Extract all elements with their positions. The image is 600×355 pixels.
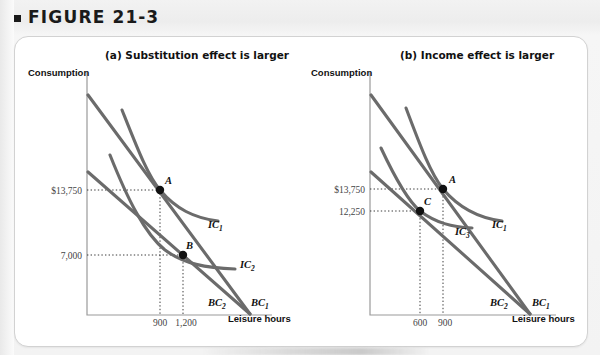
chart-b-axes <box>370 72 556 315</box>
chart-a-curve-label-bc1: BC1 <box>250 297 269 311</box>
chart-a-curve-label-ic2: IC2 <box>239 259 255 273</box>
chart-b-ytick-1: 12,250 <box>339 207 365 217</box>
chart-b-x-axis-label: Leisure hours <box>512 313 575 324</box>
chart-b-point-label-a: A <box>448 174 456 185</box>
chart-a-point-label-b: B <box>185 240 193 251</box>
chart-a-x-axis-label: Leisure hours <box>228 313 291 324</box>
chart-a-point-label-a: A <box>164 175 172 186</box>
chart-b-budget-constraints <box>371 95 530 314</box>
point-a-marker <box>439 185 447 193</box>
chart-b-curve-label-bc1: BC1 <box>531 297 550 311</box>
chart-a-y-axis-label: Consumption <box>28 67 89 78</box>
chart-a-xtick-1: 1,200 <box>175 318 197 328</box>
chart-b-point-label-c: C <box>424 196 432 207</box>
chart-a-ytick-0: $13,750 <box>51 186 82 196</box>
chart-b-xtick-1: 900 <box>438 318 453 328</box>
charts-svg: Consumption Leisure hours $13,750 7,000 … <box>0 0 600 355</box>
chart-b-indifference-curves <box>381 108 502 228</box>
chart-b-ytick-0: $13,750 <box>334 185 365 195</box>
chart-b-curve-label-bc2: BC2 <box>489 297 508 311</box>
chart-b-curve-label-ic1: IC1 <box>491 219 507 233</box>
chart-b-guides <box>370 189 443 315</box>
page-footer-smudge <box>200 348 430 355</box>
chart-a-xtick-0: 900 <box>153 318 168 328</box>
chart-b-y-axis-label: Consumption <box>311 67 372 78</box>
chart-a-budget-constraints <box>88 95 250 314</box>
point-c-marker <box>416 207 424 215</box>
chart-a-curve-label-ic1: IC1 <box>207 219 223 233</box>
point-b-marker <box>179 251 187 259</box>
point-a-marker <box>156 186 164 194</box>
chart-a-ytick-1: 7,000 <box>61 251 83 261</box>
chart-b-xtick-0: 600 <box>413 318 428 328</box>
chart-a-curve-label-bc2: BC2 <box>207 297 226 311</box>
